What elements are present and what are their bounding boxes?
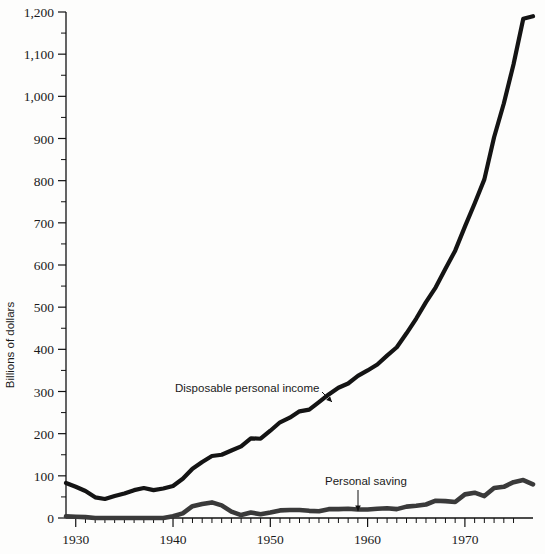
- y-tick-label: 900: [34, 132, 55, 147]
- chart-background: [0, 0, 545, 554]
- chart-container: 01002003004005006007008009001,0001,1001,…: [0, 0, 545, 554]
- annotation-label-personal-saving: Personal saving: [325, 475, 407, 487]
- y-tick-label: 300: [34, 385, 55, 400]
- y-tick-label: 1,200: [24, 5, 55, 20]
- y-tick-label: 1,100: [24, 47, 55, 62]
- y-tick-label: 500: [34, 300, 55, 315]
- line-chart: 01002003004005006007008009001,0001,1001,…: [0, 0, 545, 554]
- y-tick-label: 600: [34, 258, 55, 273]
- x-tick-label: 1940: [160, 532, 187, 547]
- x-tick-label: 1950: [257, 532, 284, 547]
- y-tick-label: 1,000: [24, 89, 55, 104]
- y-tick-label: 100: [34, 469, 55, 484]
- y-tick-label: 400: [34, 342, 55, 357]
- annotation-label-disposable-personal-income: Disposable personal income: [175, 382, 319, 394]
- y-tick-label: 800: [34, 174, 55, 189]
- x-tick-label: 1930: [62, 532, 89, 547]
- y-axis-title: Billions of dollars: [4, 302, 16, 389]
- y-tick-label: 700: [34, 216, 55, 231]
- x-tick-label: 1960: [354, 532, 381, 547]
- x-tick-label: 1970: [451, 532, 478, 547]
- y-tick-label: 0: [47, 511, 54, 526]
- y-tick-label: 200: [34, 427, 55, 442]
